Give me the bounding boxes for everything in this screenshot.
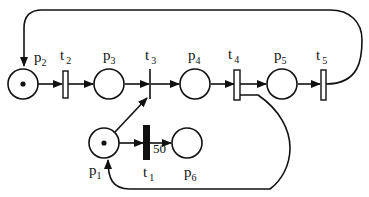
label-p1: p1: [89, 162, 102, 181]
place-p5: [267, 69, 297, 99]
transition-t5: [321, 70, 326, 100]
label-t5: t5: [316, 47, 327, 66]
place-p3: [94, 69, 124, 99]
arc-weight-label: 50: [153, 141, 166, 156]
label-p5: p5: [274, 47, 287, 66]
transition-t2: [63, 71, 68, 98]
token-p2: [20, 81, 25, 86]
transition-t1: [143, 125, 150, 160]
label-p6: p6: [184, 164, 197, 183]
label-p4: p4: [188, 47, 201, 66]
label-t2: t2: [60, 47, 71, 66]
label-t3: t3: [145, 47, 156, 66]
arc-p1-t3: [115, 98, 147, 132]
place-p6: [172, 128, 202, 158]
token-p1: [101, 140, 106, 145]
place-p4: [180, 69, 210, 99]
label-p2: p2: [34, 49, 47, 68]
petri-net-diagram: p2 t2 p3 t3 p4 t4 p5 t5 p1 t1 p6 50: [0, 0, 369, 197]
label-t4: t4: [228, 46, 239, 65]
label-t1: t1: [143, 164, 154, 183]
label-p3: p3: [103, 47, 116, 66]
transition-t4: [234, 70, 240, 100]
